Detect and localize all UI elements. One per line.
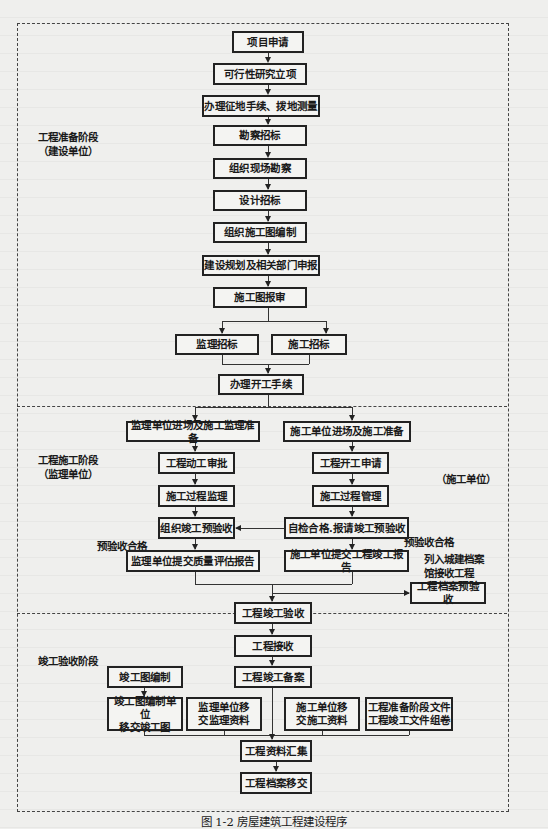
node-construction-docs-transfer: 施工单位移 交施工资料 (284, 697, 360, 731)
node-supervisor-entry: 监理单位进场及施工监理准备 (126, 421, 260, 442)
node-start-approval: 工程动工审批 (158, 452, 235, 474)
node-project-application: 项目申请 (232, 31, 304, 53)
node-contractor-entry: 施工单位进场及施工准备 (283, 421, 411, 442)
node-organize-pre-acceptance: 组织竣工预验收 (158, 517, 235, 539)
annotation-archive-note: 列入城建档案 馆接收工程 (424, 552, 484, 580)
stage-label-prep: 工程准备阶段 （建设单位） (38, 130, 98, 158)
node-survey-bidding: 勘察招标 (213, 125, 307, 146)
node-drawing-review: 施工图报审 (213, 287, 307, 308)
node-supervision-docs-transfer: 监理单位移 交监理资料 (186, 697, 262, 731)
node-start-procedures: 办理开工手续 (218, 374, 304, 395)
node-completion-filing: 工程竣工备案 (234, 666, 312, 688)
figure-caption: 图 1-2 房屋建筑工程建设程序 (0, 813, 548, 829)
node-process-supervision: 施工过程监理 (158, 485, 235, 507)
node-project-handover: 工程接收 (234, 635, 312, 657)
node-asbuilt-drawing: 竣工图编制 (107, 666, 183, 688)
node-planning-filing: 建设规划及相关部门申报 (202, 255, 320, 276)
node-docs-volume: 工程准备阶段文件 工程竣工文件组卷 (365, 697, 453, 731)
stage-label-construction: 工程施工阶段 （监理单位） (38, 453, 98, 481)
node-completion-acceptance: 工程竣工验收 (234, 602, 312, 624)
node-construction-bidding: 施工招标 (271, 334, 347, 355)
node-design-bidding: 设计招标 (213, 190, 307, 211)
annotation-pre-accept-right: 预验收合格 (404, 535, 454, 549)
node-self-check: 自检合格.报请竣工预验收 (284, 517, 409, 539)
node-start-application: 工程开工申请 (312, 452, 389, 474)
node-site-survey: 组织现场勘察 (213, 158, 307, 179)
node-land-acquisition: 办理征地手续、拨地测量 (202, 95, 320, 117)
stage-label-acceptance: 竣工验收阶段 (38, 654, 98, 668)
node-process-management: 施工过程管理 (312, 485, 389, 507)
node-asbuilt-transfer: 竣工图编制单位 移交竣工图 (107, 697, 183, 731)
node-docs-collection: 工程资料汇集 (240, 740, 312, 762)
node-drawing-compilation: 组织施工图编制 (213, 222, 307, 243)
stage-label-contractor: （施工单位） (436, 472, 496, 486)
node-completion-report: 施工单位提交工程竣工报告 (284, 550, 409, 572)
node-archive-pre-acceptance: 工程档案预验收 (410, 582, 486, 604)
node-feasibility-study: 可行性研究立项 (213, 63, 307, 85)
node-archive-transfer: 工程档案移交 (240, 772, 312, 794)
node-quality-report: 监理单位提交质量评估报告 (126, 550, 260, 572)
arrow-left-icon (235, 525, 241, 531)
node-supervision-bidding: 监理招标 (175, 334, 259, 355)
